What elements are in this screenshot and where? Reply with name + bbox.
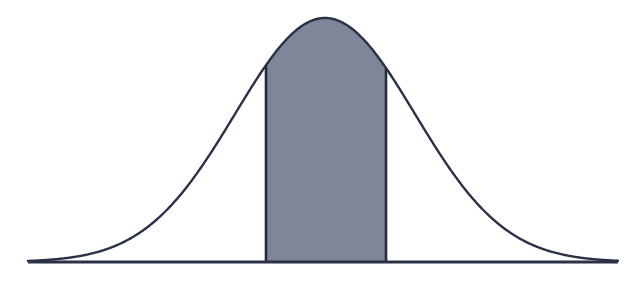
normal-distribution-figure	[0, 0, 644, 283]
shaded-area-region	[266, 18, 386, 262]
distribution-chart-canvas	[0, 0, 644, 283]
